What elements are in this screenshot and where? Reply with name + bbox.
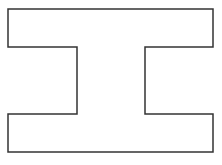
i-beam-shape (8, 9, 213, 152)
diagram-canvas (0, 0, 222, 165)
